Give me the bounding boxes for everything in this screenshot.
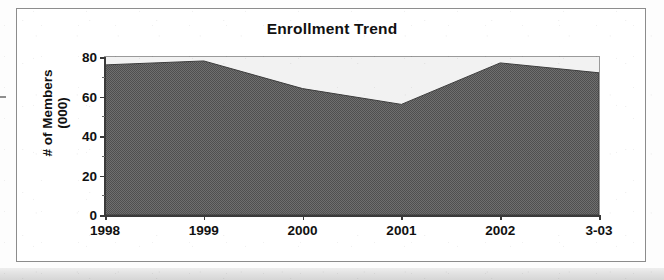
y-minor-tick: [102, 195, 105, 196]
x-tick-label: 1998: [90, 223, 120, 238]
y-tick: [100, 176, 105, 178]
y-axis-title-line-1: # of Members: [40, 69, 55, 156]
x-tick-label: 2002: [485, 223, 515, 238]
x-tick: [204, 215, 206, 220]
y-axis-title: # of Members (000): [35, 28, 75, 198]
y-tick: [100, 97, 105, 99]
plot-top-border: [104, 56, 600, 57]
chart-title: Enrollment Trend: [17, 20, 647, 38]
plot-area: 020406080 199819992000200120023-03: [105, 57, 599, 215]
x-tick: [105, 215, 107, 220]
x-axis-line: [104, 215, 600, 217]
y-tick: [100, 57, 105, 59]
x-tick: [401, 215, 403, 220]
chart-frame: Enrollment Trend # of Members (000): [16, 8, 646, 262]
page-edge-mark: [0, 96, 6, 98]
scan-bottom-edge: [0, 268, 664, 280]
y-tick-label: 60: [82, 89, 97, 104]
y-tick-label: 80: [82, 50, 97, 65]
y-tick-label: 0: [89, 208, 97, 223]
y-minor-tick: [102, 116, 105, 117]
x-tick: [599, 215, 601, 220]
x-tick-label: 1999: [189, 223, 219, 238]
chart-screenshot: Enrollment Trend # of Members (000): [0, 0, 664, 280]
y-tick: [100, 136, 105, 138]
plot-right-border: [599, 56, 600, 216]
x-tick: [500, 215, 502, 220]
area-series-path: [105, 57, 599, 215]
y-minor-tick: [102, 156, 105, 157]
x-tick-label: 3-03: [585, 223, 612, 238]
x-tick: [303, 215, 305, 220]
y-axis-title-line-2: (000): [55, 97, 70, 129]
y-minor-tick: [102, 77, 105, 78]
y-tick-label: 40: [82, 129, 97, 144]
y-tick-label: 20: [82, 168, 97, 183]
x-tick-label: 2001: [386, 223, 416, 238]
x-tick-label: 2000: [288, 223, 318, 238]
